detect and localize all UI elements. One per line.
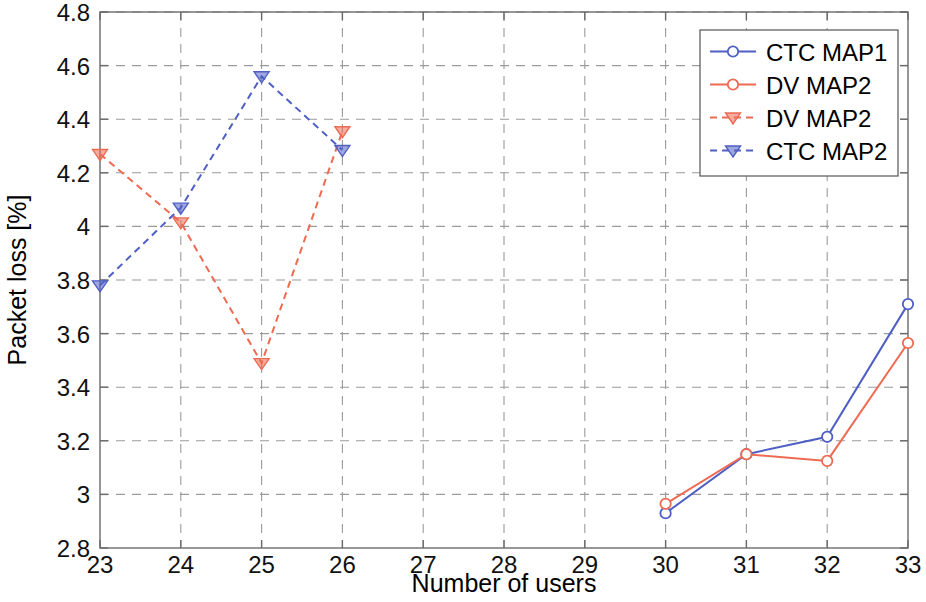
y-tick-label: 3.2 bbox=[57, 428, 90, 455]
legend-label: CTC MAP2 bbox=[766, 138, 887, 165]
x-tick-label: 24 bbox=[167, 551, 194, 578]
y-tick-label: 3 bbox=[77, 481, 90, 508]
data-point-marker bbox=[728, 46, 738, 56]
data-point-marker bbox=[822, 456, 832, 466]
chart-legend[interactable]: CTC MAP1DV MAP2DV MAP2CTC MAP2 bbox=[700, 30, 898, 176]
y-tick-label: 3.8 bbox=[57, 267, 90, 294]
y-tick-label: 3.4 bbox=[57, 374, 90, 401]
x-tick-label: 33 bbox=[895, 551, 922, 578]
data-point-marker bbox=[741, 449, 751, 459]
y-tick-label: 4 bbox=[77, 213, 90, 240]
y-axis-label: Packet loss [%] bbox=[3, 195, 31, 366]
y-tick-label: 2.8 bbox=[57, 535, 90, 562]
data-point-marker bbox=[660, 499, 670, 509]
legend-label: CTC MAP1 bbox=[766, 39, 887, 66]
x-tick-label: 31 bbox=[733, 551, 760, 578]
legend-label: DV MAP2 bbox=[766, 72, 871, 99]
x-tick-label: 26 bbox=[329, 551, 356, 578]
data-point-marker bbox=[903, 338, 913, 348]
y-tick-label: 4.8 bbox=[57, 0, 90, 26]
data-point-marker bbox=[822, 432, 832, 442]
data-point-marker bbox=[903, 299, 913, 309]
packet-loss-line-chart: 2.833.23.43.63.844.24.44.64.8 2324252627… bbox=[0, 0, 926, 602]
x-axis-label: Number of users bbox=[412, 569, 597, 597]
x-tick-label: 25 bbox=[248, 551, 275, 578]
y-tick-label: 3.6 bbox=[57, 321, 90, 348]
x-tick-label: 32 bbox=[814, 551, 841, 578]
y-tick-label: 4.6 bbox=[57, 53, 90, 80]
chart-figure: 2.833.23.43.63.844.24.44.64.8 2324252627… bbox=[0, 0, 926, 602]
x-tick-label: 23 bbox=[87, 551, 114, 578]
data-point-marker bbox=[728, 79, 738, 89]
y-tick-label: 4.4 bbox=[57, 106, 90, 133]
x-tick-label: 30 bbox=[652, 551, 679, 578]
y-tick-label: 4.2 bbox=[57, 160, 90, 187]
legend-label: DV MAP2 bbox=[766, 105, 871, 132]
